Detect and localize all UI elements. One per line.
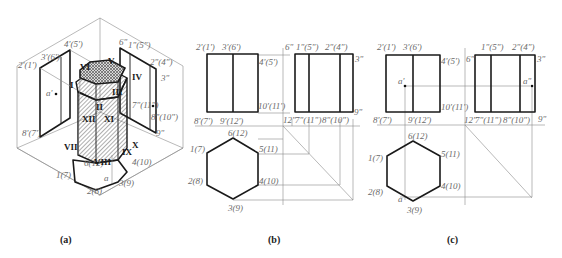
- label-c-2pp-4pp: 2"(4"): [512, 42, 535, 52]
- vertex-II: II: [96, 102, 104, 112]
- label-2p-1p: 2'(1'): [18, 60, 37, 70]
- label-8pp-10pp: 8"(10"): [151, 112, 178, 122]
- label-3p-6p: 3'(6'): [40, 52, 60, 62]
- label-c-5-11: 5(11): [441, 149, 460, 159]
- vertex-VIII: VIII: [94, 157, 112, 167]
- label-c-3p-6p: 3'(6'): [402, 42, 422, 52]
- label-c-1pp-5pp: 1"(5"): [481, 42, 504, 52]
- vertex-XII: XII: [82, 114, 96, 124]
- label-c-1-7: 1(7): [368, 153, 383, 163]
- label-1pp-5pp: 1"(5"): [128, 40, 151, 50]
- label-b-3-9: 3(9): [227, 203, 243, 213]
- front-view-b: [207, 54, 258, 112]
- vertex-XI: XI: [104, 114, 114, 124]
- label-c-3-9: 3(9): [406, 205, 422, 215]
- label-b-2p-1p: 2'(1'): [196, 42, 215, 52]
- vertex-IV: IV: [132, 72, 143, 82]
- label-b-8pp-10pp: 8"(10"): [322, 115, 349, 125]
- label-c-a-double-prime: a": [523, 76, 532, 86]
- label-b-9p-12p: 9'(12'): [220, 116, 243, 126]
- label-a: a: [104, 173, 109, 183]
- point-a-prime: [55, 93, 58, 96]
- label-b-4-10: 4(10): [259, 176, 279, 186]
- label-b-3p-6p: 3'(6'): [221, 42, 241, 52]
- label-c-4-10: 4(10): [441, 181, 461, 191]
- label-c-a-prime: a': [398, 76, 406, 86]
- label-b-9pp: 9": [354, 107, 363, 117]
- vertex-I: I: [70, 80, 74, 90]
- vertex-X: X: [132, 140, 139, 150]
- label-6pp: 6": [119, 37, 128, 47]
- label-2pp-4pp: 2"(4"): [150, 57, 173, 67]
- label-b-2-8: 2(8): [188, 176, 203, 186]
- label-a-prime: a': [46, 88, 54, 98]
- caption-a: (a): [60, 234, 72, 246]
- panel-c-three-views: 2'(1') 3'(6') 4'(5') 10'(11') 8'(7') 9'(…: [368, 42, 547, 246]
- label-b-10p-11p: 10'(11'): [258, 101, 285, 111]
- label-b-8p-7p: 8'(7'): [194, 116, 213, 126]
- label-c-10p-11p: 10'(11'): [441, 102, 468, 112]
- top-view-hexagon-c: [387, 141, 440, 201]
- label-3pp: 3": [160, 73, 170, 83]
- label-1-7: 1(7): [56, 170, 71, 180]
- label-c-2-8: 2(8): [368, 187, 383, 197]
- label-c-a: a: [398, 194, 403, 204]
- vertex-III: III: [112, 87, 123, 97]
- vertex-VII: VII: [64, 142, 78, 152]
- caption-c: (c): [447, 234, 458, 246]
- label-8p-7p: 8'(7'): [22, 128, 41, 138]
- label-b-5-11: 5(11): [259, 144, 278, 154]
- label-3-9: 3(9): [118, 178, 134, 188]
- label-7pp-11pp: 7"(11"): [132, 100, 158, 110]
- label-c-7pp-11pp: 7"(11"): [475, 115, 501, 125]
- label-c-3pp: 3": [536, 54, 546, 64]
- panel-a-isometric: 2'(1') 3'(6') 4'(5') a' 8'(7') 6" 1"(5")…: [17, 18, 183, 246]
- label-c-4p-5p: 4'(5'): [441, 56, 460, 66]
- vertex-IX: IX: [122, 147, 133, 157]
- label-c-6-12: 6(12): [408, 131, 428, 141]
- panel-b-three-views: 2'(1') 3'(6') 4'(5') 10'(11') 8'(7') 9'(…: [188, 42, 364, 246]
- label-c-8p-7p: 8'(7'): [373, 115, 392, 125]
- vertex-V: V: [108, 56, 115, 66]
- top-view-hexagon-b: [207, 138, 258, 199]
- label-b-2pp-4pp: 2"(4"): [325, 42, 348, 52]
- label-2-8: 2(8): [87, 186, 102, 196]
- label-b-6pp: 6": [285, 42, 294, 52]
- label-b-6-12: 6(12): [228, 128, 248, 138]
- label-9pp: 9": [156, 128, 165, 138]
- label-c-9p-12p: 9'(12'): [408, 115, 431, 125]
- label-b-1-7: 1(7): [190, 144, 205, 154]
- front-view-c: [386, 55, 440, 112]
- label-c-9pp: 9": [538, 114, 547, 124]
- label-c-6pp: 6": [466, 54, 475, 64]
- label-b-3pp: 3": [354, 54, 364, 64]
- caption-b: (b): [268, 234, 280, 246]
- side-view-b: [295, 54, 353, 112]
- label-4p-5p: 4'(5'): [64, 39, 83, 49]
- label-b-1pp-5pp: 1"(5"): [296, 42, 319, 52]
- label-b-4p-5p: 4'(5'): [259, 57, 278, 67]
- label-c-2p-1p: 2'(1'): [377, 42, 396, 52]
- figure-canvas: 2'(1') 3'(6') 4'(5') a' 8'(7') 6" 1"(5")…: [0, 0, 562, 258]
- label-c-8pp-10pp: 8"(10"): [503, 115, 530, 125]
- label-b-7pp-11pp: 7"(11"): [295, 115, 321, 125]
- vertex-VI: VI: [80, 62, 90, 72]
- label-4-10: 4(10): [132, 157, 152, 167]
